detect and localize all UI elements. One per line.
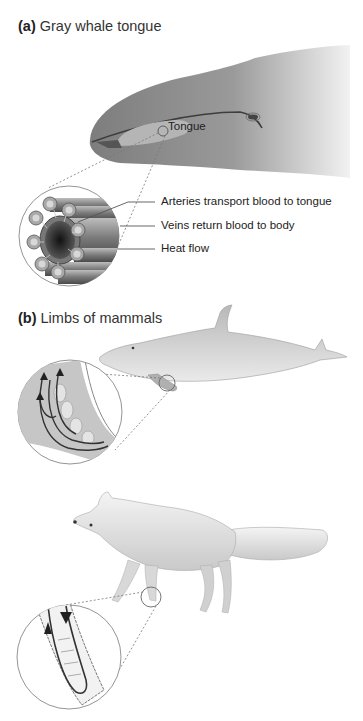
- flipper-closeup: [10, 360, 125, 470]
- arctic-fox-illustration: [73, 492, 327, 613]
- veins-label: Veins return blood to body: [161, 219, 295, 231]
- panel-a-title-text: Gray whale tongue: [40, 18, 162, 34]
- panel-a-title: (a) Gray whale tongue: [18, 18, 161, 34]
- vessel-cross-section: [19, 186, 145, 286]
- panel-b-letter: (b): [18, 310, 37, 326]
- panel-a-letter: (a): [18, 18, 36, 34]
- panel-b-title-text: Limbs of mammals: [41, 310, 163, 326]
- heat-flow-label: Heat flow: [161, 242, 209, 254]
- diagram-art: [0, 0, 363, 721]
- whale-head-illustration: [90, 45, 350, 178]
- arteries-label: Arteries transport blood to tongue: [161, 195, 332, 207]
- tongue-label: Tongue: [168, 120, 206, 132]
- fox-leg-closeup: [17, 603, 121, 709]
- panel-b-title: (b) Limbs of mammals: [18, 310, 162, 326]
